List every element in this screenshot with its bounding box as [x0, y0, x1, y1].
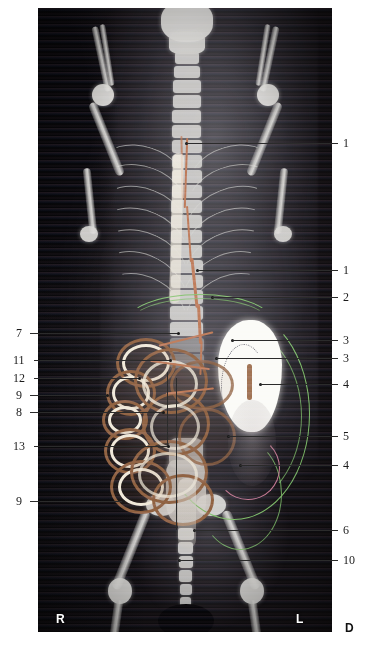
- label-4-upper: 4: [343, 378, 349, 390]
- leader-dot: [122, 500, 125, 503]
- leader-dot: [177, 332, 180, 335]
- label-1-upper: 1: [343, 137, 349, 149]
- leader-line: [228, 436, 338, 437]
- label-5: 5: [343, 430, 349, 442]
- label-1-lower: 1: [343, 264, 349, 276]
- label-9-lower: 9: [16, 495, 22, 507]
- leader-dot: [138, 377, 141, 380]
- label-10: 10: [343, 554, 355, 566]
- ct-scan-panel: R L: [38, 8, 332, 632]
- descending-colon: [178, 478, 196, 548]
- label-9-upper: 9: [16, 389, 22, 401]
- vertical-connector-13: [167, 372, 168, 446]
- vertical-connector-12: [176, 378, 177, 530]
- leader-line: [30, 395, 107, 396]
- leader-line: [197, 270, 338, 271]
- label-12: 12: [13, 372, 25, 384]
- leader-dot: [106, 394, 109, 397]
- label-8: 8: [16, 406, 22, 418]
- label-6: 6: [343, 524, 349, 536]
- leader-line: [212, 297, 338, 298]
- leader-line: [179, 560, 338, 561]
- leader-line: [30, 501, 123, 502]
- leader-line: [194, 530, 338, 531]
- label-7: 7: [16, 327, 22, 339]
- leader-line: [216, 358, 338, 359]
- leader-line: [30, 333, 178, 334]
- label-3-lower: 3: [343, 352, 349, 364]
- leader-line: [186, 143, 338, 144]
- leader-line: [34, 446, 168, 447]
- label-11: 11: [13, 354, 25, 366]
- leader-dot: [169, 359, 172, 362]
- leader-line: [34, 360, 170, 361]
- anatomical-figure: R L 1 1 2 3 3 4 5 4 6 10: [0, 0, 370, 645]
- leader-line: [34, 378, 139, 379]
- leader-line: [30, 412, 163, 413]
- label-13: 13: [13, 440, 25, 452]
- dorsal-marker: D: [345, 621, 354, 635]
- leader-dot: [162, 411, 165, 414]
- left-marker: L: [296, 612, 304, 626]
- right-marker: R: [56, 612, 65, 626]
- leader-line: [232, 340, 338, 341]
- label-4-lower: 4: [343, 459, 349, 471]
- leader-line: [240, 465, 338, 466]
- label-2: 2: [343, 291, 349, 303]
- leader-line: [260, 384, 338, 385]
- spleen-mass: [228, 400, 276, 486]
- label-3-upper: 3: [343, 334, 349, 346]
